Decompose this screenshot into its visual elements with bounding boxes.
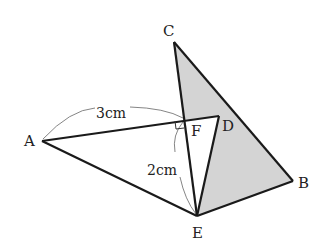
label-e: E <box>192 224 203 242</box>
dimension-arc-af-right <box>130 107 183 118</box>
geometry-diagram: A B C D E F 3cm 2cm <box>0 0 330 250</box>
label-a: A <box>23 132 35 150</box>
label-f: F <box>191 122 201 140</box>
segment-ae <box>42 141 197 216</box>
label-b: B <box>298 174 309 192</box>
dimension-label-fe: 2cm <box>147 162 177 178</box>
label-c: C <box>163 22 174 40</box>
label-d: D <box>222 117 234 135</box>
dimension-label-af: 3cm <box>96 105 126 121</box>
